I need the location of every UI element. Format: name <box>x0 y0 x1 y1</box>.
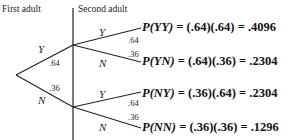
expr-yy: = (.64)(.64) = .4096 <box>176 20 276 34</box>
outcome-ny: P(NY) = (.36)(.64) = .2304 <box>142 86 277 101</box>
expr-nn: = (.36)(.36) = .1296 <box>179 120 279 134</box>
event-yy: P(YY) <box>142 20 173 34</box>
expr-yn: = (.64)(.36) = .2304 <box>178 54 278 68</box>
prob-yn: .36 <box>128 49 139 59</box>
event-yn: P(YN) <box>142 54 175 68</box>
label-first-n: N <box>38 94 45 106</box>
label-ny: Y <box>99 88 105 100</box>
label-yn: N <box>99 57 106 69</box>
label-nn: N <box>99 121 106 133</box>
outcome-yn: P(YN) = (.64)(.36) = .2304 <box>142 54 277 69</box>
event-nn: P(NN) <box>142 120 176 134</box>
branch-first-y <box>16 45 73 75</box>
header-first-adult: First adult <box>2 4 41 14</box>
outcome-yy: P(YY) = (.64)(.64) = .4096 <box>142 20 276 35</box>
prob-first-y: .64 <box>49 58 60 68</box>
prob-ny: .64 <box>128 98 139 108</box>
outcome-nn: P(NN) = (.36)(.36) = .1296 <box>142 120 279 135</box>
prob-nn: .36 <box>128 112 139 122</box>
label-first-y: Y <box>38 43 44 55</box>
prob-yy: .64 <box>128 35 139 45</box>
expr-ny: = (.36)(.64) = .2304 <box>178 86 278 100</box>
label-yy: Y <box>99 26 105 38</box>
prob-first-n: .36 <box>49 83 60 93</box>
header-second-adult: Second adult <box>78 4 127 14</box>
event-ny: P(NY) <box>142 86 175 100</box>
